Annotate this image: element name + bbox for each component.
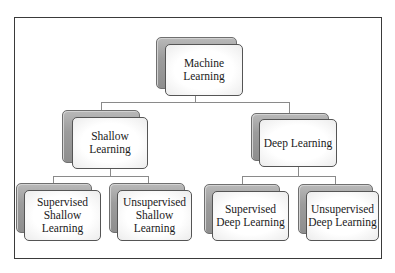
- node-box: Unsupervised Shallow Learning: [117, 190, 192, 241]
- connector-shallow-horizontal: [53, 176, 149, 177]
- node-box: Deep Learning: [259, 119, 337, 167]
- node-label: Unsupervised Shallow Learning: [123, 196, 186, 235]
- node-box: Supervised Shallow Learning: [24, 190, 101, 241]
- node-label: Supervised Deep Learning: [216, 203, 285, 229]
- node-label: Machine Learning: [183, 57, 225, 83]
- node-label: Deep Learning: [264, 137, 333, 150]
- connector-deep-horizontal: [242, 176, 336, 177]
- connector-shallow-down: [110, 169, 111, 176]
- node-box: Machine Learning: [165, 44, 243, 96]
- node-label: Unsupervised Deep Learning: [308, 203, 377, 229]
- node-label: Shallow Learning: [89, 130, 131, 156]
- connector-level2-horizontal: [101, 102, 290, 103]
- node-box: Unsupervised Deep Learning: [306, 191, 379, 241]
- node-label: Supervised Shallow Learning: [37, 196, 88, 235]
- connector-deep-down: [298, 167, 299, 176]
- node-box: Supervised Deep Learning: [212, 191, 289, 241]
- node-box: Shallow Learning: [72, 117, 148, 169]
